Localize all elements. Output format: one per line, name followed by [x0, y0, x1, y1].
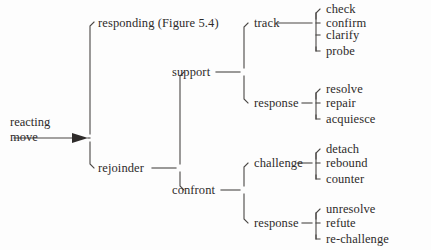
- leaf-confront-response-0: unresolve: [326, 203, 376, 216]
- diagram-canvas: reacting move responding (Figure 5.4) re…: [0, 0, 431, 250]
- leaf-track-0: check: [326, 3, 356, 16]
- node-responding: responding (Figure 5.4): [98, 17, 219, 30]
- root-label-line-2: move: [10, 130, 50, 145]
- leaf-support-response-2: acquiesce: [326, 113, 375, 126]
- leaf-challenge-2: counter: [326, 173, 364, 186]
- node-support: support: [172, 66, 210, 79]
- leaf-support-response-0: resolve: [326, 83, 363, 96]
- leaf-challenge-0: detach: [326, 143, 359, 156]
- node-confront-response: response: [254, 217, 299, 230]
- root-node-reacting-move: reacting move: [10, 115, 50, 144]
- node-confront: confront: [172, 184, 215, 197]
- rightwards-arrow-icon: [72, 133, 88, 143]
- leaf-track-2: clarify: [326, 29, 359, 42]
- node-rejoinder: rejoinder: [98, 162, 144, 175]
- leaf-challenge-1: rebound: [326, 157, 368, 170]
- root-label-line-1: reacting: [10, 115, 50, 130]
- node-challenge: challenge: [254, 157, 303, 170]
- leaf-confront-response-2: re-challenge: [326, 233, 389, 246]
- node-support-response: response: [254, 97, 299, 110]
- leaf-confront-response-1: refute: [326, 217, 356, 230]
- leaf-track-3: probe: [326, 45, 355, 58]
- leaf-support-response-1: repair: [326, 97, 356, 110]
- node-track: track: [254, 17, 279, 30]
